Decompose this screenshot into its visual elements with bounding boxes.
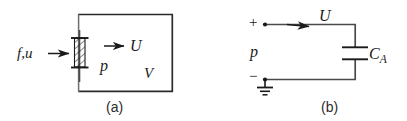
force-velocity-label: f,u [17,46,32,61]
capacitor-subscript: A [380,53,387,65]
piston-head [71,38,89,68]
voltage-label: U [319,8,331,24]
pressure-label: p [100,58,108,74]
panel-b-circuit-diagram: + − U p CA (b) [203,0,407,121]
positive-terminal-node [263,22,267,26]
cylinder-walls [78,15,173,93]
positive-terminal-label: + [249,15,257,30]
volume-label: V [144,66,153,81]
circuit-pressure-label: p [250,44,258,60]
panel-b-caption: (b) [321,100,338,114]
capacitor-symbol [342,47,368,59]
panel-a-piston-diagram: f,u U p V (a) [0,0,204,121]
capacitor-symbol-letter: C [369,45,380,62]
capacitor-label: CA [369,46,387,66]
figure-container: f,u U p V (a) [0,0,407,121]
circuit-wires [265,25,356,81]
panel-a-caption: (a) [106,100,123,114]
ground-icon [257,80,273,95]
piston-velocity-label: U [130,38,142,54]
negative-terminal-label: − [249,69,257,84]
